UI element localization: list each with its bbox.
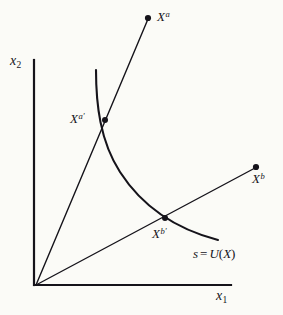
point-label-xb-superscript: b [260, 171, 265, 181]
point-marker-xb-prime [162, 215, 168, 221]
point-marker-xa [145, 15, 151, 21]
y-axis-label-subscript: 2 [16, 60, 21, 70]
y-axis-label: x2 [10, 54, 21, 70]
x-axis-label-subscript: 1 [222, 295, 227, 305]
curve-equation-u: U [209, 246, 218, 261]
point-marker-xa-prime [102, 117, 108, 123]
curve-equation-label: s=U(X) [193, 247, 235, 260]
point-label-xa-prime: Xa' [70, 112, 85, 125]
indifference-curve-path [96, 70, 218, 240]
point-label-xa: Xa [157, 10, 170, 23]
x-axis-label: x1 [216, 289, 227, 305]
curve-equation-equals: = [198, 246, 209, 261]
utility-diagram-figure: x2 x1 Xa Xb Xa' Xb' s=U(X) [0, 0, 283, 315]
ray-to-xa-line [36, 19, 148, 285]
point-label-xb-prime-base: X [152, 226, 160, 241]
diagram-canvas [0, 0, 283, 315]
curve-equation-close-paren: ) [231, 246, 235, 261]
point-label-xa-base: X [157, 9, 165, 24]
ray-to-xb-line [36, 168, 255, 285]
point-label-xa-prime-base: X [70, 111, 78, 126]
point-label-xb-base: X [252, 171, 260, 186]
point-label-xa-prime-mark: ' [83, 111, 85, 121]
point-label-xb-prime: Xb' [152, 227, 167, 240]
point-label-xb: Xb [252, 172, 265, 185]
point-marker-xb [253, 164, 259, 170]
point-label-xa-superscript: a [165, 9, 170, 19]
point-label-xb-prime-mark: ' [165, 226, 167, 236]
curve-equation-argument: X [223, 246, 231, 261]
